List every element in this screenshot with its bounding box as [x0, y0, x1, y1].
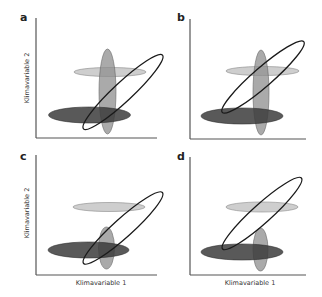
panel-a: a Klimavariable 2	[20, 11, 169, 138]
x-axis-label-c: Klimavariable 1	[76, 279, 127, 287]
dark-ellipse-b	[201, 108, 283, 124]
x-axis-label-d: Klimavariable 1	[225, 279, 276, 287]
panel-label-d: d	[177, 150, 185, 163]
y-axis-label-a: Klimavariable 2	[23, 53, 31, 104]
panel-c: c Klimavariable 2 Klimavariable 1	[20, 150, 169, 287]
panel-label-a: a	[20, 11, 27, 24]
figure-canvas: a Klimavariable 2 b c Klimavariable 2 Kl…	[0, 0, 322, 297]
panel-label-b: b	[177, 11, 185, 24]
panel-d: d Klimavariable 1	[177, 150, 308, 287]
panel-label-c: c	[20, 150, 27, 163]
y-axis-label-c: Klimavariable 2	[23, 188, 31, 239]
light-ellipse-d	[226, 202, 298, 212]
panel-b: b	[177, 11, 310, 139]
dark-ellipse-d	[201, 244, 283, 260]
